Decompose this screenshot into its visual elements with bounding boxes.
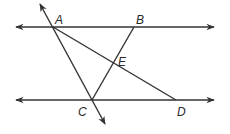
label-D: D	[177, 105, 186, 119]
label-B: B	[136, 13, 144, 27]
diagram-canvas: A B E C D	[0, 0, 230, 134]
label-A: A	[54, 13, 63, 27]
geometry-diagram: A B E C D	[0, 0, 230, 134]
label-C: C	[78, 105, 87, 119]
label-E: E	[118, 55, 127, 69]
segment-BC	[92, 27, 134, 100]
transversal-AC	[40, 4, 105, 124]
